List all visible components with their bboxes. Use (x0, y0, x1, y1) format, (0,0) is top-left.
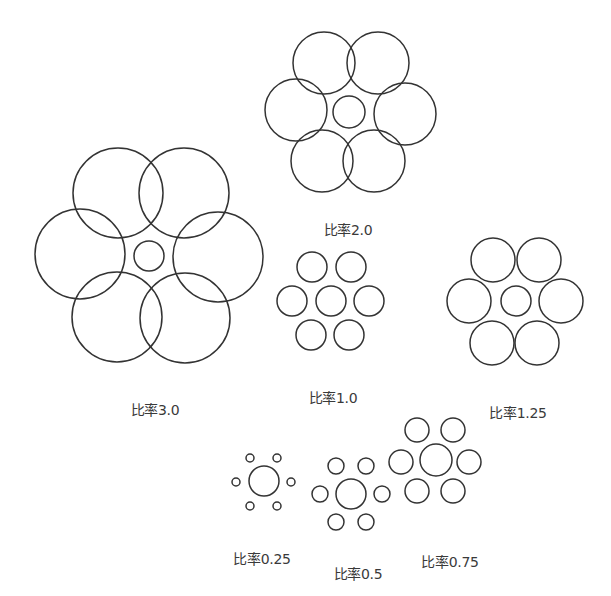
outer-circle (336, 252, 366, 282)
circle-group-ratio-0-25 (232, 454, 295, 510)
outer-circle (517, 238, 561, 282)
label-ratio-1-0: 比率1.0 (309, 387, 358, 407)
outer-circle (347, 32, 409, 94)
outer-circle (72, 272, 162, 362)
outer-circle (246, 454, 254, 462)
center-circle (134, 241, 164, 271)
circle-group-ratio-0-5 (312, 458, 390, 530)
outer-circle (539, 279, 583, 323)
label-ratio-3-0: 比率3.0 (131, 399, 180, 419)
outer-circle (457, 450, 481, 474)
outer-circle (328, 514, 344, 530)
center-circle (249, 466, 279, 496)
center-circle (501, 286, 531, 316)
circle-group-ratio-3-0 (35, 148, 263, 363)
outer-circle (374, 486, 390, 502)
outer-circle (328, 458, 344, 474)
label-ratio-0-25: 比率0.25 (233, 548, 290, 568)
outer-circle (296, 320, 326, 350)
outer-circle (273, 502, 281, 510)
circle-group-ratio-2-0 (265, 32, 436, 192)
center-circle (336, 479, 366, 509)
circle-group-ratio-1-25 (447, 238, 583, 365)
outer-circle (515, 321, 559, 365)
circle-group-ratio-1-0 (277, 252, 384, 350)
outer-circle (447, 279, 491, 323)
outer-circle (312, 486, 328, 502)
outer-circle (358, 458, 374, 474)
center-circle (316, 286, 346, 316)
outer-circle (471, 238, 515, 282)
outer-circle (389, 450, 413, 474)
outer-circle (232, 478, 240, 486)
circle-group-ratio-0-75 (389, 418, 481, 503)
outer-circle (35, 209, 125, 299)
label-ratio-0-75: 比率0.75 (421, 551, 478, 571)
outer-circle (246, 502, 254, 510)
outer-circle (265, 79, 327, 141)
outer-circle (139, 148, 229, 238)
outer-circle (354, 286, 384, 316)
outer-circle (470, 321, 514, 365)
outer-circle (297, 252, 327, 282)
circle-ratio-diagram: 比率3.0 比率2.0 比率1.0 比率1.25 比率0.25 比率0.5 比率… (0, 0, 611, 596)
outer-circle (405, 479, 429, 503)
outer-circle (273, 454, 281, 462)
label-ratio-0-5: 比率0.5 (334, 563, 383, 583)
center-circle (420, 444, 452, 476)
outer-circle (73, 148, 163, 238)
center-circle (333, 96, 365, 128)
outer-circle (277, 286, 307, 316)
diagram-canvas (0, 0, 611, 596)
outer-circle (374, 83, 436, 145)
outer-circle (287, 478, 295, 486)
outer-circle (441, 479, 465, 503)
label-ratio-1-25: 比率1.25 (489, 402, 546, 422)
outer-circle (358, 514, 374, 530)
outer-circle (334, 320, 364, 350)
outer-circle (293, 32, 355, 94)
outer-circle (405, 418, 429, 442)
outer-circle (441, 418, 465, 442)
label-ratio-2-0: 比率2.0 (324, 219, 373, 239)
